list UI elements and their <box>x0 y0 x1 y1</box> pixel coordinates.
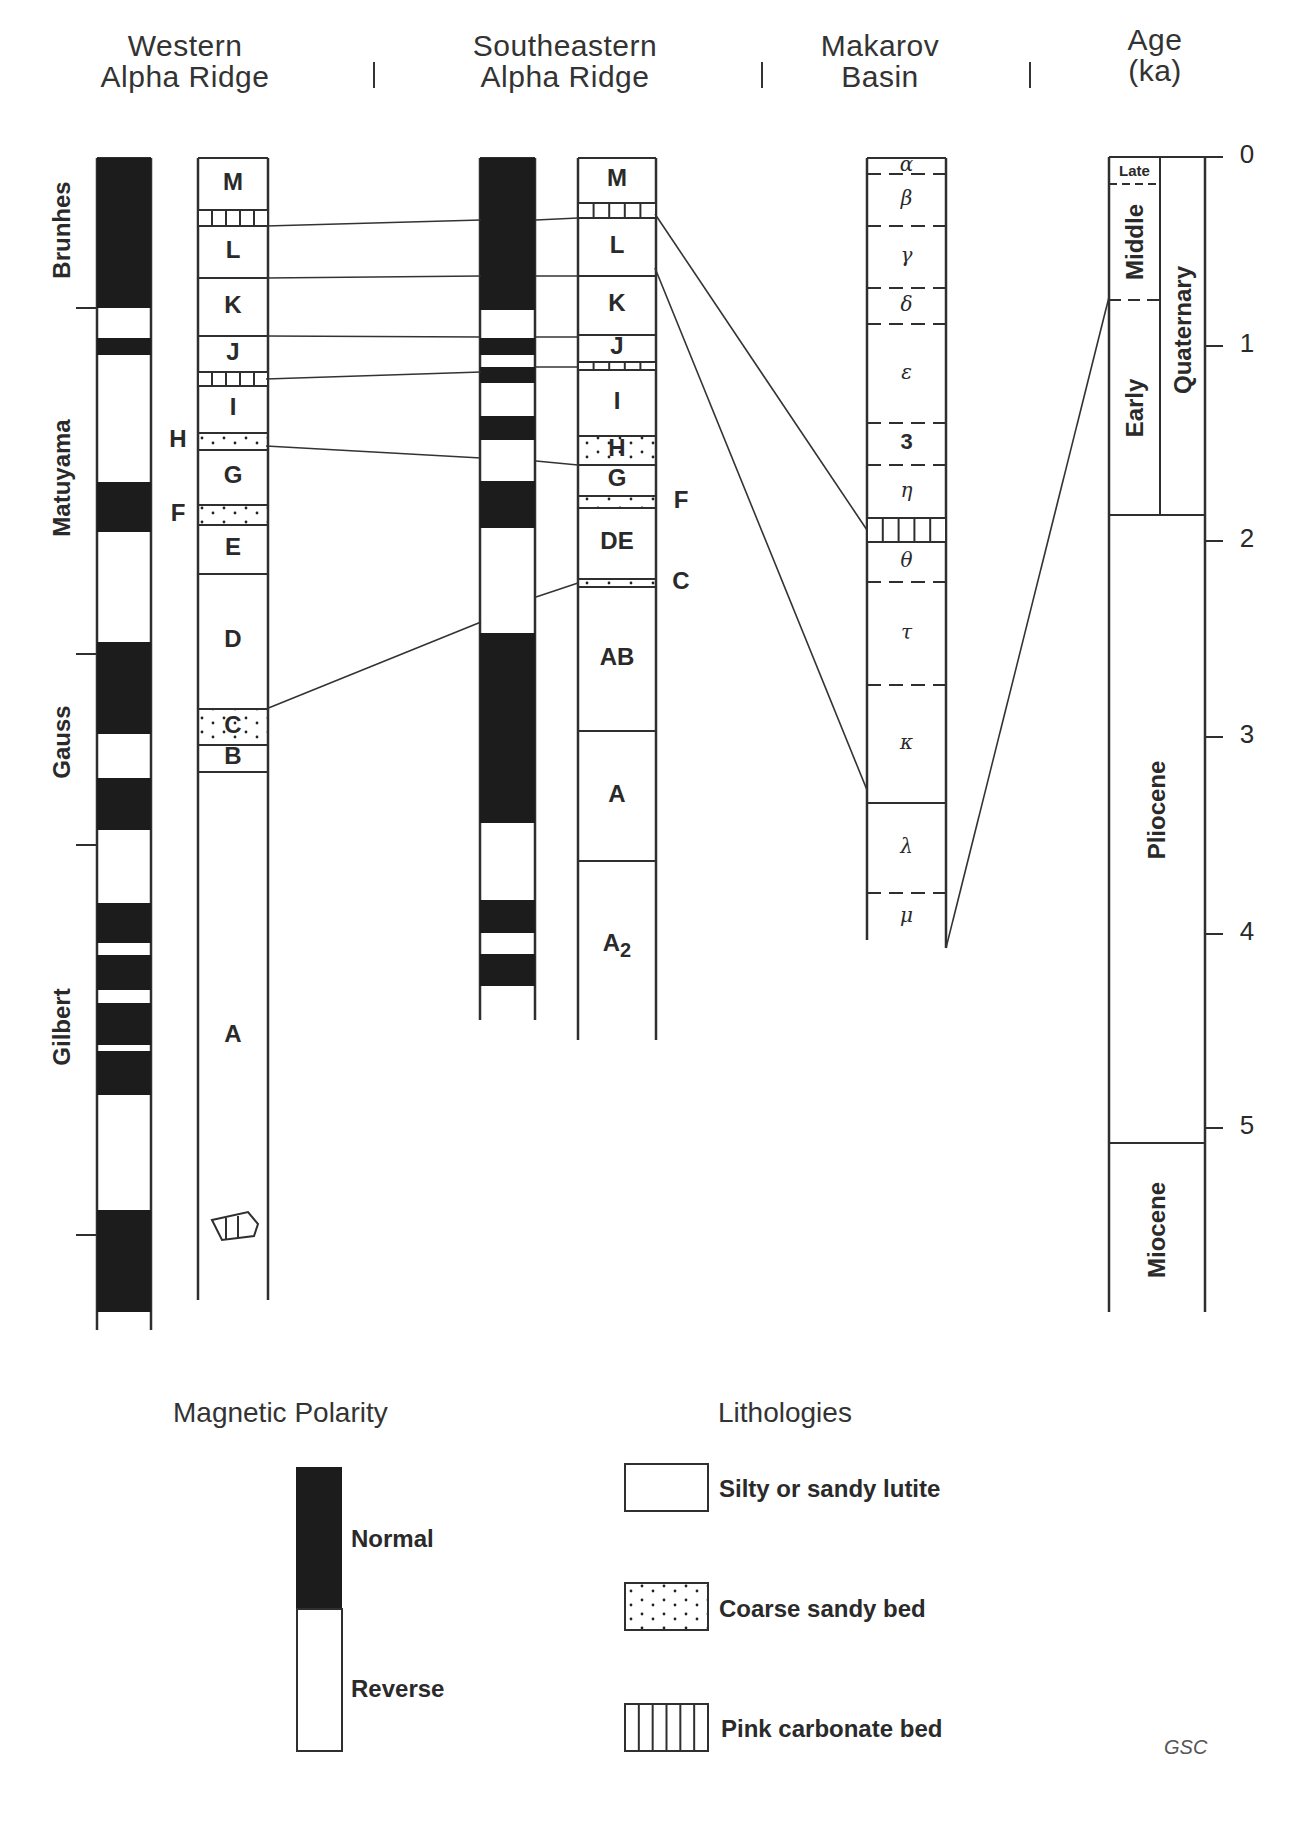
correlation-line <box>946 297 1109 948</box>
carbonate-bed <box>578 362 656 370</box>
age-tick-label: 1 <box>1187 330 1292 356</box>
side-label-H: H <box>118 427 238 451</box>
correlation-line <box>536 461 578 465</box>
makarov-unit-label: ε <box>847 362 967 382</box>
normal-polarity-band <box>97 1210 151 1312</box>
period-label-quaternary: Quaternary <box>1171 266 1195 394</box>
makarov-unit-label: 3 <box>847 431 967 453</box>
subdivision-label-late: Late <box>1075 163 1195 178</box>
chronozone-label-matuyama: Matuyama <box>50 419 74 536</box>
correlation-line <box>536 218 578 220</box>
western-polarity-column <box>76 158 151 1330</box>
unit-label-L: L <box>557 233 677 257</box>
age-tick-label: 2 <box>1187 525 1292 551</box>
legend-lutite-label: Silty or sandy lutite <box>719 1475 940 1503</box>
unit-label-J: J <box>557 334 677 358</box>
legend-graphics <box>296 1464 708 1751</box>
chronozone-label-gilbert: Gilbert <box>50 988 74 1065</box>
side-label-F: F <box>118 501 238 525</box>
normal-polarity-band <box>480 900 535 933</box>
normal-polarity-band <box>97 1051 151 1095</box>
makarov-unit-label: γ <box>847 245 967 265</box>
normal-polarity-band <box>480 158 535 310</box>
normal-polarity-band <box>97 903 151 943</box>
age-tick-label: 4 <box>1187 918 1292 944</box>
normal-polarity-band <box>480 633 535 823</box>
unit-label-A: A2 <box>557 931 677 960</box>
legend-sand-label: Coarse sandy bed <box>719 1595 926 1623</box>
normal-polarity-band <box>97 1003 151 1045</box>
unit-label-G: G <box>557 466 677 490</box>
unit-label-E: E <box>173 535 293 559</box>
unit-label-I: I <box>557 389 677 413</box>
correlation-line <box>266 336 481 337</box>
makarov-unit-label: τ <box>847 622 967 642</box>
legend-lithology-title: Lithologies <box>718 1397 852 1429</box>
side-label-C: C <box>621 569 741 593</box>
unit-label-C: C <box>173 713 293 737</box>
stratigraphic-correlation-diagram <box>0 0 1292 1831</box>
unit-label-B: B <box>173 744 293 768</box>
period-label-pliocene: Pliocene <box>1145 761 1169 860</box>
makarov-unit-label: κ <box>847 732 967 752</box>
period-label-miocene: Miocene <box>1145 1182 1169 1278</box>
normal-polarity-band <box>97 778 151 830</box>
unit-label-AB: AB <box>557 645 677 669</box>
legend-sand-swatch <box>625 1583 708 1630</box>
age-tick-label: 5 <box>1187 1112 1292 1138</box>
subdivision-label-early: Early <box>1123 379 1147 438</box>
unit-label-M: M <box>557 166 677 190</box>
correlation-line <box>655 268 867 790</box>
normal-polarity-band <box>480 416 535 440</box>
unit-label-L: L <box>173 238 293 262</box>
side-label-F: F <box>621 488 741 512</box>
legend-polarity-title: Magnetic Polarity <box>173 1397 388 1429</box>
carbonate-bed <box>578 203 656 218</box>
normal-polarity-band <box>480 954 535 986</box>
correlation-line <box>266 622 481 709</box>
unit-label-H: H <box>557 436 677 460</box>
legend-lutite-swatch <box>625 1464 708 1511</box>
normal-polarity-band <box>480 338 535 355</box>
unit-label-D: D <box>173 627 293 651</box>
normal-polarity-band <box>480 481 535 528</box>
unit-label-M: M <box>173 170 293 194</box>
makarov-unit-label: α <box>847 154 967 174</box>
makarov-unit-label: δ <box>847 294 967 314</box>
correlation-line <box>655 214 867 530</box>
carbonate-bed <box>198 210 268 226</box>
legend-normal-label: Normal <box>351 1525 434 1553</box>
unit-label-K: K <box>173 293 293 317</box>
correlation-line <box>266 372 481 379</box>
correlation-line <box>266 276 481 278</box>
subdivision-label-middle: Middle <box>1123 204 1147 280</box>
legend-carbonate-label: Pink carbonate bed <box>721 1715 942 1743</box>
normal-polarity-band <box>480 367 535 383</box>
legend-reverse-swatch <box>297 1609 342 1751</box>
makarov-unit-label: η <box>847 480 967 500</box>
correlation-line <box>266 446 481 458</box>
carbonate-clast-icon <box>212 1212 258 1240</box>
correlation-line <box>266 220 481 226</box>
correlation-line <box>536 583 578 597</box>
credit-gsc: GSC <box>1164 1736 1207 1759</box>
normal-polarity-band <box>97 642 151 734</box>
age-tick-label: 0 <box>1187 141 1292 167</box>
legend-reverse-label: Reverse <box>351 1675 444 1703</box>
unit-label-K: K <box>557 291 677 315</box>
unit-label-A: A <box>173 1022 293 1046</box>
age-tick-label: 3 <box>1187 721 1292 747</box>
chronozone-label-gauss: Gauss <box>50 705 74 778</box>
unit-label-DE: DE <box>557 529 677 553</box>
normal-polarity-band <box>97 158 151 308</box>
normal-polarity-band <box>97 338 151 355</box>
unit-label-I: I <box>173 395 293 419</box>
southeastern-polarity-column <box>480 158 535 1020</box>
makarov-unit-label: θ <box>847 550 967 570</box>
unit-label-A: A <box>557 782 677 806</box>
makarov-unit-label: μ <box>847 905 967 925</box>
carbonate-bed <box>198 372 268 386</box>
normal-polarity-band <box>97 955 151 990</box>
makarov-unit-label: λ <box>847 836 967 856</box>
chronozone-label-brunhes: Brunhes <box>50 181 74 278</box>
